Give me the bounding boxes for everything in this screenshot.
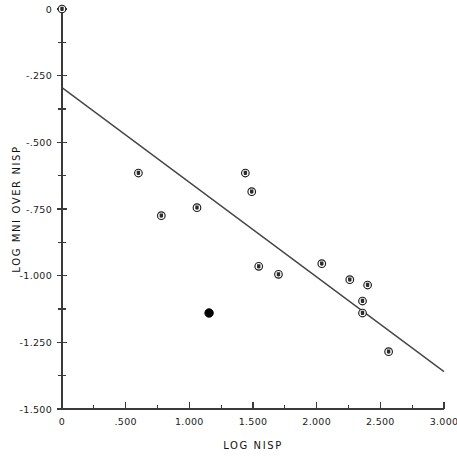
x-tick-label: 0 [59, 416, 65, 427]
data-point-glyph [387, 349, 390, 353]
plot-svg: 0.5001.0001.5002.0002.5003.000 0-.250-.5… [0, 0, 457, 466]
regression-line [62, 88, 444, 372]
data-point-glyph [195, 205, 198, 209]
data-point-glyph [361, 299, 364, 303]
y-axis-title: LOG MNI OVER NISP [11, 145, 22, 272]
data-point-glyph [348, 277, 351, 281]
data-point-filled [205, 309, 213, 317]
data-point-glyph [244, 171, 247, 175]
data-point-glyph [366, 283, 369, 287]
data-point-glyph [361, 311, 364, 315]
y-tick-label: -.500 [26, 137, 52, 148]
x-tick-label: 1.000 [175, 416, 204, 427]
x-tick-label: 3.000 [430, 416, 457, 427]
y-tick-label: -.750 [26, 204, 52, 215]
x-tick-label: 1.500 [239, 416, 268, 427]
data-point-glyph [160, 213, 163, 217]
data-point-glyph [60, 7, 63, 11]
y-tick-label: -.250 [26, 70, 52, 81]
data-point-glyph [137, 171, 140, 175]
x-axis-ticks: 0.5001.0001.5002.0002.5003.000 [59, 402, 457, 427]
scatter-plot-figure: 0.5001.0001.5002.0002.5003.000 0-.250-.5… [0, 0, 457, 466]
y-tick-label: -1.500 [20, 404, 52, 415]
y-tick-label: -1.000 [20, 270, 52, 281]
x-tick-label: 2.000 [302, 416, 331, 427]
data-point-glyph [257, 264, 260, 268]
data-point-glyph [277, 272, 280, 276]
data-points-group [58, 5, 392, 355]
y-tick-label: 0 [46, 4, 52, 15]
regression-line-path [62, 88, 444, 372]
x-tick-label: 2.500 [366, 416, 395, 427]
data-point-glyph [320, 261, 323, 265]
y-axis-ticks: 0-.250-.500-.750-1.000-1.250-1.500 [20, 4, 67, 415]
data-point-glyph [250, 189, 253, 193]
x-axis-title: LOG NISP [223, 440, 283, 451]
x-tick-label: .500 [114, 416, 136, 427]
y-tick-label: -1.250 [20, 337, 52, 348]
